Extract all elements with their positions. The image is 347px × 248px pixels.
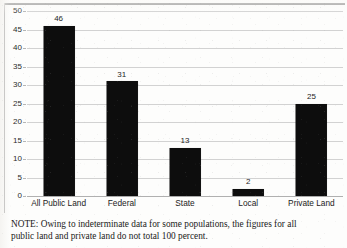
y-tick-mark-5 bbox=[23, 178, 26, 179]
figure-note-line-2: public land and private land do not tota… bbox=[11, 231, 341, 242]
category-label: All Public Land bbox=[31, 198, 86, 209]
bar bbox=[43, 26, 74, 196]
y-axis-tick-label: 45 bbox=[13, 26, 22, 34]
y-tick-mark-10 bbox=[23, 159, 26, 160]
y-tick-mark-25 bbox=[23, 104, 26, 105]
y-axis-tick-label: 50 bbox=[13, 7, 22, 15]
figure-page: 05101520253035404550 463113225 All Publi… bbox=[0, 0, 347, 248]
figure-note-line-1: NOTE: Owing to indeterminate data for so… bbox=[11, 219, 341, 230]
y-axis-tick-label: 40 bbox=[13, 44, 22, 52]
bar bbox=[233, 189, 264, 196]
bar-value-label: 2 bbox=[246, 178, 250, 186]
category-axis-labels: All Public LandFederalStateLocalPrivate … bbox=[27, 198, 343, 212]
bar-slot: 31 bbox=[90, 11, 153, 196]
bars-group: 463113225 bbox=[27, 11, 343, 196]
bar-slot: 13 bbox=[153, 11, 216, 196]
bar-slot: 2 bbox=[217, 11, 280, 196]
y-axis-tick-label: 5 bbox=[18, 174, 22, 182]
y-axis-tick-label: 30 bbox=[13, 81, 22, 89]
bar-value-label: 46 bbox=[54, 15, 63, 23]
bar-chart-figure: 05101520253035404550 463113225 All Publi… bbox=[0, 0, 347, 216]
y-axis-tick-label: 35 bbox=[13, 63, 22, 71]
bar bbox=[169, 148, 200, 196]
figure-top-border bbox=[4, 3, 345, 5]
category-label: State bbox=[175, 198, 194, 209]
y-tick-mark-45 bbox=[23, 30, 26, 31]
y-axis-tick-label: 15 bbox=[13, 137, 22, 145]
y-tick-mark-30 bbox=[23, 85, 26, 86]
bar-value-label: 25 bbox=[307, 93, 316, 101]
y-tick-mark-35 bbox=[23, 67, 26, 68]
bar-value-label: 31 bbox=[117, 71, 126, 79]
y-tick-mark-40 bbox=[23, 48, 26, 49]
y-tick-mark-50 bbox=[23, 11, 26, 12]
y-axis-tick-label: 20 bbox=[13, 118, 22, 126]
y-tick-mark-15 bbox=[23, 141, 26, 142]
bar-slot: 46 bbox=[27, 11, 90, 196]
bar bbox=[296, 104, 327, 197]
y-axis-tick-label: 0 bbox=[18, 192, 22, 200]
y-axis-tick-label: 10 bbox=[13, 155, 22, 163]
bar-slot: 25 bbox=[280, 11, 343, 196]
category-label: Local bbox=[238, 198, 258, 209]
bar-value-label: 13 bbox=[181, 137, 190, 145]
y-tick-mark-0 bbox=[23, 196, 26, 197]
gridline-0 bbox=[27, 196, 343, 197]
y-axis-tick-label: 25 bbox=[13, 100, 22, 108]
figure-note: NOTE: Owing to indeterminate data for so… bbox=[11, 219, 341, 242]
bar bbox=[106, 81, 137, 196]
category-label: Private Land bbox=[288, 198, 335, 209]
category-label: Federal bbox=[108, 198, 136, 209]
y-tick-mark-20 bbox=[23, 122, 26, 123]
figure-left-border bbox=[4, 3, 5, 213]
